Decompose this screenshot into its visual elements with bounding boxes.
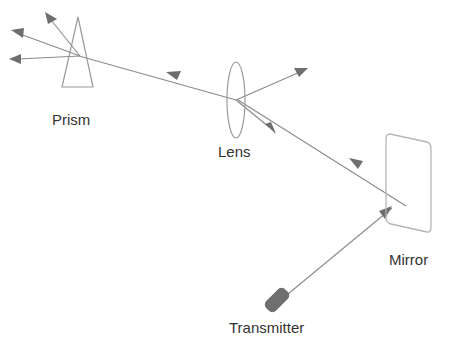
ray-lens-to-prism xyxy=(79,56,236,100)
arrowhead-lens-scatter-down-right xyxy=(265,122,276,134)
ray-group xyxy=(9,12,406,294)
arrowhead-mirror-to-lens xyxy=(349,158,363,169)
arrowhead-lens-to-prism xyxy=(166,71,181,80)
arrowhead-prism-dispersion-low xyxy=(9,54,21,64)
transmitter-shape xyxy=(263,286,291,314)
ray-lens-scatter-up-right xyxy=(236,72,300,100)
arrowhead-prism-dispersion-mid xyxy=(11,28,24,38)
label-transmitter: Transmitter xyxy=(229,320,304,335)
prism-shape xyxy=(62,17,93,87)
mirror-shape xyxy=(386,134,431,232)
ray-transmitter-to-mirror xyxy=(288,208,392,294)
label-lens: Lens xyxy=(218,144,251,159)
transmitter-device xyxy=(263,286,291,314)
optics-diagram-canvas xyxy=(0,0,455,352)
arrowhead-prism-dispersion-up xyxy=(45,12,57,24)
ray-prism-dispersion-low xyxy=(18,56,80,59)
label-prism: Prism xyxy=(52,112,90,127)
arrowhead-lens-scatter-up-right xyxy=(294,68,308,77)
optics-diagram: Prism Lens Mirror Transmitter xyxy=(0,0,455,352)
label-mirror: Mirror xyxy=(389,252,428,267)
ray-lens-scatter-down-right xyxy=(236,100,269,127)
ray-mirror-to-lens xyxy=(238,100,406,206)
